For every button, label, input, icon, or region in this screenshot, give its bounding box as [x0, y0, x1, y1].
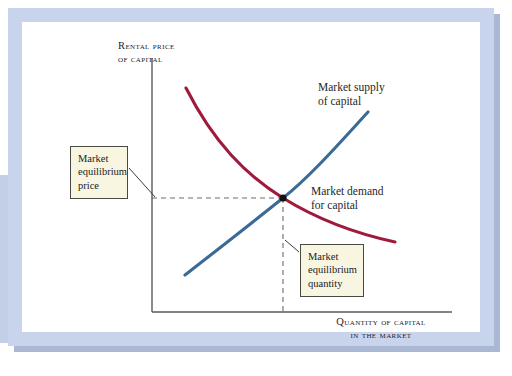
equilibrium-price-callout: Market equilibrium price	[70, 146, 128, 199]
figure-canvas: Rental price of capital Quantity of capi…	[0, 0, 512, 376]
demand-curve-label: Market demand for capital	[311, 184, 384, 212]
x-axis-label: Quantity of capital in the market	[306, 316, 456, 342]
demand-curve	[186, 88, 395, 242]
y-axis-label: Rental price of capital	[118, 40, 175, 66]
price-callout-leader	[129, 168, 155, 197]
equilibrium-quantity-callout: Market equilibrium quantity	[300, 244, 364, 297]
supply-curve-label: Market supply of capital	[318, 80, 385, 108]
quantity-callout-leader	[285, 240, 299, 252]
equilibrium-point-marker	[279, 194, 286, 201]
